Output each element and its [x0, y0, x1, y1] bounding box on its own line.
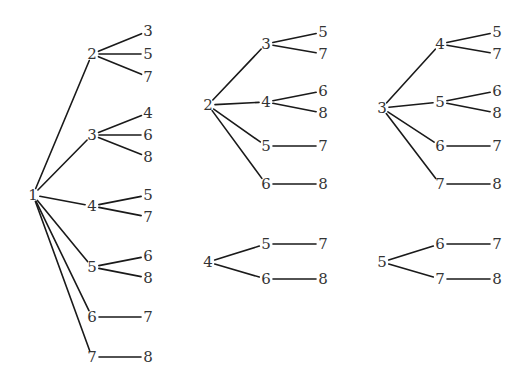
branch-line: [36, 201, 89, 310]
branch-line: [386, 114, 436, 179]
branch-line: [389, 246, 434, 260]
root-node-label: 2: [203, 96, 213, 114]
root-node-label: 4: [203, 253, 213, 271]
level-2-node-label: 3: [261, 35, 271, 53]
branch-line: [99, 207, 141, 215]
branch-line: [273, 92, 316, 100]
leaf-node-label: 7: [143, 68, 153, 86]
branch-line: [447, 92, 490, 100]
level-2-node-label: 2: [87, 45, 97, 63]
branch-line: [98, 34, 141, 52]
branch-line: [388, 112, 434, 142]
leaf-node-label: 7: [143, 208, 153, 226]
leaf-node-label: 4: [143, 104, 153, 122]
branch-line: [212, 111, 262, 179]
branch-line: [273, 33, 316, 42]
branch-line: [214, 109, 261, 142]
leaf-node-label: 5: [492, 23, 502, 41]
level-2-node-label: 6: [261, 270, 271, 288]
leaf-node-label: 5: [318, 23, 328, 41]
level-2-node-label: 5: [435, 93, 445, 111]
level-2-node-label: 6: [435, 235, 445, 253]
level-2-node-label: 3: [87, 126, 97, 144]
leaf-node-label: 7: [318, 137, 328, 155]
branch-line: [447, 45, 490, 53]
level-2-node-label: 6: [435, 137, 445, 155]
leaf-node-label: 8: [492, 270, 502, 288]
branch-line: [99, 196, 141, 204]
tree-3: 34575686778: [377, 23, 502, 193]
leaf-node-label: 7: [143, 308, 153, 326]
leaf-node-label: 8: [318, 270, 328, 288]
leaf-node-label: 7: [492, 235, 502, 253]
leaf-node-label: 8: [143, 148, 153, 166]
branch-line: [99, 138, 142, 155]
level-2-node-label: 5: [261, 137, 271, 155]
leaf-node-label: 8: [492, 175, 502, 193]
level-2-node-label: 4: [87, 197, 97, 215]
branch-line: [36, 60, 90, 188]
branch-line: [98, 57, 141, 75]
branch-line: [447, 33, 490, 42]
leaf-node-label: 3: [143, 22, 153, 40]
branch-line: [273, 103, 316, 111]
leaf-node-label: 8: [143, 348, 153, 366]
branch-line: [99, 257, 141, 265]
root-node-label: 5: [377, 253, 387, 271]
level-2-node-label: 6: [87, 308, 97, 326]
branch-line: [35, 202, 89, 351]
level-2-node-label: 7: [87, 348, 97, 366]
tree-5: 56778: [377, 235, 502, 288]
leaf-node-label: 7: [492, 137, 502, 155]
leaf-node-label: 7: [492, 45, 502, 63]
leaf-node-label: 5: [143, 186, 153, 204]
level-2-node-label: 6: [261, 175, 271, 193]
branch-line: [213, 49, 261, 100]
tree-diagram-svg: 1235734684575686778235746857683457568677…: [0, 0, 527, 384]
leaf-node-label: 7: [318, 235, 328, 253]
level-2-node-label: 4: [435, 35, 445, 53]
root-node-label: 1: [28, 186, 38, 204]
tree-2: 23574685768: [203, 23, 328, 193]
branch-line: [389, 264, 434, 277]
tree-4: 45768: [203, 235, 328, 288]
branch-line: [273, 45, 316, 53]
tree-diagram-canvas: 1235734684575686778235746857683457568677…: [0, 0, 527, 384]
leaf-node-label: 6: [318, 82, 328, 100]
branch-line: [215, 264, 260, 277]
leaf-node-label: 7: [318, 45, 328, 63]
tree-1: 1235734684575686778: [28, 22, 153, 366]
level-2-node-label: 7: [435, 270, 445, 288]
leaf-node-label: 8: [492, 104, 502, 122]
leaf-node-label: 6: [143, 247, 153, 265]
root-node-label: 3: [377, 99, 387, 117]
leaf-node-label: 6: [492, 82, 502, 100]
branch-line: [40, 196, 85, 204]
leaf-node-label: 6: [143, 126, 153, 144]
leaf-node-label: 8: [318, 175, 328, 193]
level-2-node-label: 5: [261, 235, 271, 253]
branch-line: [37, 200, 87, 261]
branch-line: [99, 116, 142, 133]
branch-line: [99, 268, 141, 276]
level-2-node-label: 7: [435, 175, 445, 193]
level-2-node-label: 5: [87, 258, 97, 276]
leaf-node-label: 8: [143, 269, 153, 287]
level-2-node-label: 4: [261, 93, 271, 111]
leaf-node-label: 8: [318, 104, 328, 122]
branch-line: [387, 49, 436, 103]
branch-line: [215, 102, 259, 104]
branch-line: [389, 103, 433, 108]
branch-line: [447, 103, 490, 111]
branch-line: [215, 246, 260, 260]
leaf-node-label: 5: [143, 45, 153, 63]
